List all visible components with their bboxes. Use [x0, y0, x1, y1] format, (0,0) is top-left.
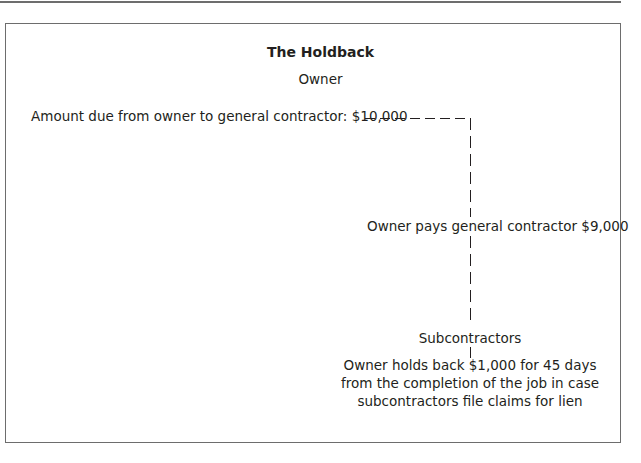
- owner-pays-label: Owner pays general contractor $9,000: [367, 217, 629, 235]
- holdback-note: Owner holds back $1,000 for 45 days from…: [340, 356, 600, 410]
- amount-due-label: Amount due from owner to general contrac…: [31, 107, 408, 125]
- subcontractors-label: Subcontractors: [380, 329, 560, 347]
- diagram-title: The Holdback: [0, 43, 641, 61]
- owner-label: Owner: [0, 70, 641, 88]
